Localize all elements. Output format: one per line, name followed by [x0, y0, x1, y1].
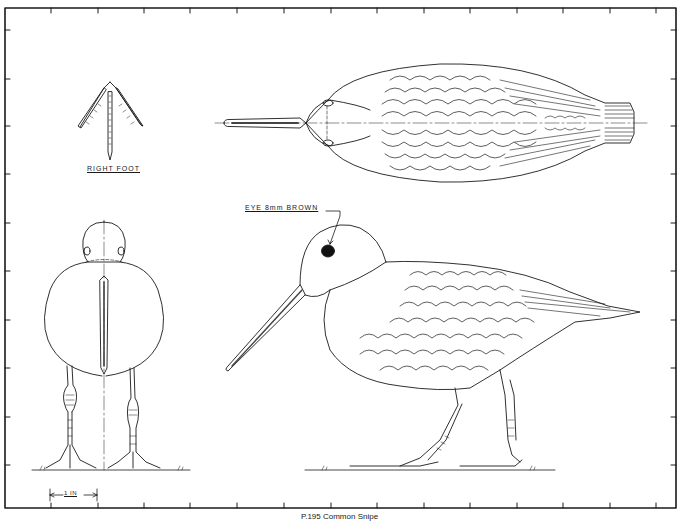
- side-view-drawing: [226, 225, 640, 470]
- right-foot-label: RIGHT FOOT: [87, 165, 140, 172]
- scale-label: 1 IN: [64, 490, 77, 496]
- eye-note-label: EYE 8mm BROWN: [245, 204, 318, 211]
- figure-caption: P.195 Common Snipe: [0, 512, 679, 521]
- frame-border: [5, 8, 676, 508]
- carving-pattern-drawing: [0, 0, 679, 522]
- right-foot-icon: [78, 82, 143, 160]
- scallop-feathers-side: [360, 272, 534, 371]
- top-view-drawing: [215, 64, 648, 182]
- front-view-drawing: [32, 220, 190, 470]
